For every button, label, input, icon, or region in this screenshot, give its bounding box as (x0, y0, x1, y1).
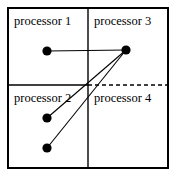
node-processor3 (121, 45, 130, 54)
quadrant-label-processor-4: processor 4 (94, 92, 151, 105)
node-processor2-lower (42, 143, 51, 152)
edge-n1-n3 (47, 50, 126, 51)
node-processor2-upper (42, 113, 51, 122)
edge-n2a-n3 (47, 50, 126, 118)
quadrant-label-processor-1: processor 1 (14, 15, 71, 28)
quadrant-label-processor-3: processor 3 (94, 15, 151, 28)
processor-partition-diagram: processor 1 processor 2 processor 3 proc… (0, 0, 176, 178)
quadrant-label-processor-2: processor 2 (14, 92, 71, 105)
node-processor1 (42, 46, 51, 55)
